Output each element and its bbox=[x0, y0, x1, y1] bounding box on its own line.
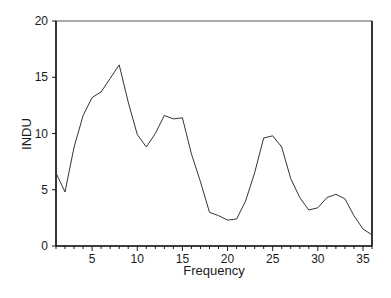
line-chart: 05101520 5101520253035 Frequency INDU bbox=[0, 0, 391, 298]
y-tick-label: 15 bbox=[35, 70, 49, 84]
y-tick-label: 10 bbox=[35, 127, 49, 141]
x-tick-label: 35 bbox=[356, 252, 370, 266]
y-tick-label: 20 bbox=[35, 14, 49, 28]
y-axis-title: INDU bbox=[19, 118, 34, 150]
x-tick-label: 5 bbox=[89, 252, 96, 266]
y-axis: 05101520 bbox=[35, 14, 56, 253]
series-line-indu bbox=[56, 65, 372, 235]
y-tick-label: 5 bbox=[41, 183, 48, 197]
x-tick-label: 10 bbox=[131, 252, 145, 266]
x-tick-label: 30 bbox=[311, 252, 325, 266]
x-axis-title: Frequency bbox=[183, 263, 245, 278]
plot-frame bbox=[56, 21, 372, 246]
y-tick-label: 0 bbox=[41, 239, 48, 253]
x-tick-label: 25 bbox=[266, 252, 280, 266]
